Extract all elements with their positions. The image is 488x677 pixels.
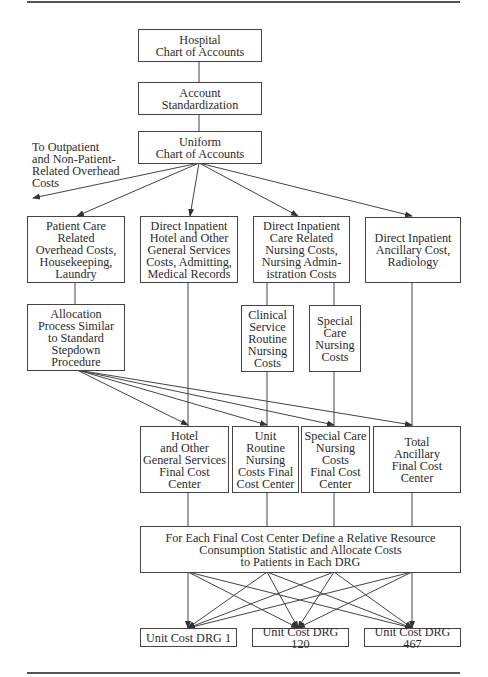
final-cost-center-special-care-label: Special Care Nursing Costs Final Cost Ce… bbox=[305, 430, 367, 490]
uniform-chart-label: Uniform Chart of Accounts bbox=[156, 136, 245, 160]
outpatient-note: To Outpatient and Non-Patient- Related O… bbox=[32, 141, 120, 189]
unit-cost-drg-1: Unit Cost DRG 1 bbox=[140, 628, 237, 647]
hospital-chart-box: Hospital Chart of Accounts bbox=[138, 29, 262, 62]
final-cost-center-unit-routine: Unit Routine Nursing Costs Final Cost Ce… bbox=[232, 426, 299, 493]
special-care-box: Special Care Nursing Costs bbox=[309, 305, 361, 372]
allocation-process-box: Allocation Process Similar to Standard S… bbox=[27, 304, 125, 371]
final-cost-center-hotel-label: Hotel and Other General Services Final C… bbox=[143, 430, 226, 490]
hospital-chart-label: Hospital Chart of Accounts bbox=[156, 34, 245, 58]
final-cost-center-ancillary-label: Total Ancillary Final Cost Center bbox=[392, 436, 442, 484]
relative-resource-allocation-label: For Each Final Cost Center Define a Rela… bbox=[165, 532, 435, 568]
final-cost-center-special-care: Special Care Nursing Costs Final Cost Ce… bbox=[301, 426, 370, 493]
uniform-chart-box: Uniform Chart of Accounts bbox=[138, 131, 262, 164]
final-cost-center-hotel: Hotel and Other General Services Final C… bbox=[140, 426, 229, 493]
clinical-service-label: Clinical Service Routine Nursing Costs bbox=[248, 309, 287, 369]
direct-inpatient-nursing-box: Direct Inpatient Care Related Nursing Co… bbox=[253, 216, 350, 283]
direct-inpatient-nursing-label: Direct Inpatient Care Related Nursing Co… bbox=[262, 220, 342, 280]
unit-cost-drg-467-label: Unit Cost DRG 467 bbox=[366, 626, 459, 650]
unit-cost-drg-1-label: Unit Cost DRG 1 bbox=[146, 632, 231, 644]
patient-care-overhead-label: Patient Care Related Overhead Costs, Hou… bbox=[36, 220, 117, 280]
special-care-label: Special Care Nursing Costs bbox=[315, 315, 354, 363]
account-standardization-label: Account Standardization bbox=[162, 87, 239, 111]
direct-inpatient-hotel-box: Direct Inpatient Hotel and Other General… bbox=[140, 216, 238, 283]
direct-inpatient-hotel-label: Direct Inpatient Hotel and Other General… bbox=[146, 220, 232, 280]
account-standardization-box: Account Standardization bbox=[138, 82, 262, 115]
patient-care-overhead-box: Patient Care Related Overhead Costs, Hou… bbox=[27, 216, 125, 283]
clinical-service-box: Clinical Service Routine Nursing Costs bbox=[241, 305, 294, 372]
direct-inpatient-ancillary-box: Direct Inpatient Ancillary Cost, Radiolo… bbox=[365, 217, 461, 283]
allocation-process-label: Allocation Process Similar to Standard S… bbox=[38, 308, 114, 368]
final-cost-center-ancillary: Total Ancillary Final Cost Center bbox=[373, 426, 461, 493]
direct-inpatient-ancillary-label: Direct Inpatient Ancillary Cost, Radiolo… bbox=[375, 232, 452, 268]
relative-resource-allocation-box: For Each Final Cost Center Define a Rela… bbox=[140, 526, 461, 573]
unit-cost-drg-120: Unit Cost DRG 120 bbox=[252, 628, 349, 647]
final-cost-center-unit-routine-label: Unit Routine Nursing Costs Final Cost Ce… bbox=[234, 430, 297, 490]
unit-cost-drg-120-label: Unit Cost DRG 120 bbox=[254, 626, 347, 650]
unit-cost-drg-467: Unit Cost DRG 467 bbox=[364, 628, 461, 647]
